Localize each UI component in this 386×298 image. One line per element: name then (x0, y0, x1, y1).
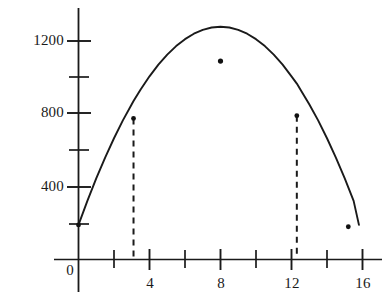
x-tick-label-8: 8 (209, 275, 233, 292)
marker-vertex-point (218, 58, 223, 63)
marker-right-dashed-point (294, 113, 299, 118)
y-tick-label-400: 400 (14, 178, 64, 195)
parabola-curve-fine (79, 27, 359, 225)
x-tick-label-12: 12 (278, 275, 306, 292)
chart-figure: 1200 800 400 0 4 8 12 16 (0, 0, 386, 298)
x-tick-label-4: 4 (138, 275, 162, 292)
marker-launch-point (76, 223, 81, 228)
y-tick-label-1200: 1200 (14, 32, 64, 49)
y-tick-label-800: 800 (14, 104, 64, 121)
marker-descent-point (346, 224, 351, 229)
x-tick-label-0: 0 (58, 262, 82, 279)
x-tick-label-16: 16 (349, 275, 377, 292)
marker-left-dashed-point (131, 116, 136, 121)
